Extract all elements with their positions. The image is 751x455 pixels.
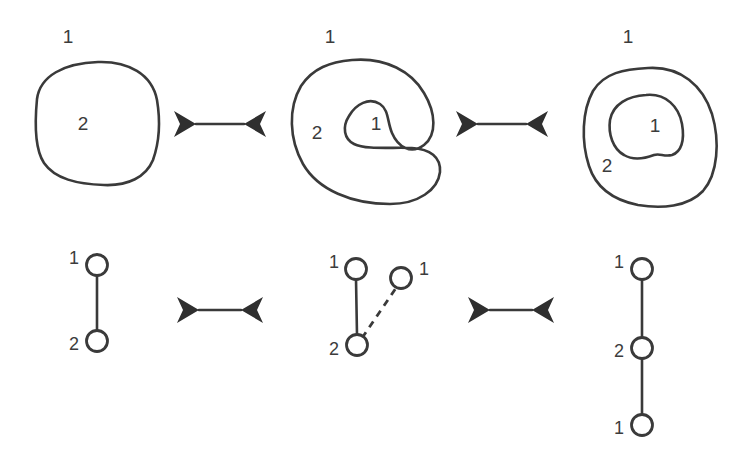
panel-3-inner-label: 1: [650, 115, 661, 136]
graph-3-node-1: [632, 338, 653, 359]
nested-blob-inner-outline: [610, 95, 683, 159]
panel-1-inner-label: 2: [78, 113, 89, 134]
rounded-square-blob-outline: [36, 62, 159, 185]
graph-1-node-0: [87, 255, 108, 276]
graph-3-node-0-label: 1: [614, 252, 624, 272]
graph-2-edge-1: [362, 288, 396, 338]
graph-2-node-1: [391, 268, 412, 289]
graph-1-node-1: [87, 331, 108, 352]
top-panel-3: 1 2 1: [584, 26, 717, 207]
graph-3-node-2-label: 1: [614, 418, 624, 438]
top-arrow-2: [456, 111, 548, 137]
bottom-graph-1: 1 2: [69, 248, 108, 354]
graph-2-node-1-label: 1: [419, 259, 429, 279]
panel-2-body-label: 2: [312, 122, 323, 143]
bottom-arrow-2: [468, 297, 554, 323]
graph-2-edge-0: [356, 279, 357, 335]
bottom-graph-2: 1 1 2: [329, 252, 429, 359]
graph-2-node-0-label: 1: [329, 252, 339, 272]
bottom-arrow-1: [177, 297, 263, 323]
top-arrow-1: [174, 111, 266, 137]
graph-2-node-2: [347, 335, 368, 356]
figure-canvas: 1 2 1 2 1 1 2 1: [0, 0, 751, 455]
graph-3-node-0: [632, 259, 653, 280]
graph-3-node-1-label: 2: [614, 341, 624, 361]
top-panel-2: 1 2 1: [292, 26, 440, 204]
panel-1-outer-label: 1: [63, 26, 74, 47]
panel-2-notch-label: 1: [371, 113, 382, 134]
nested-blob-outer-outline: [584, 68, 717, 207]
panel-3-ring-label: 2: [602, 155, 613, 176]
top-panel-1: 1 2: [36, 26, 159, 185]
graph-3-node-2: [632, 415, 653, 436]
graph-1-node-0-label: 1: [69, 248, 79, 268]
panel-3-outer-label: 1: [623, 26, 634, 47]
bottom-graph-3: 1 2 1: [614, 252, 653, 438]
graph-2-node-0: [346, 259, 367, 280]
graph-1-node-1-label: 2: [69, 334, 79, 354]
graph-2-node-2-label: 2: [329, 339, 339, 359]
panel-2-outer-label: 1: [325, 26, 336, 47]
